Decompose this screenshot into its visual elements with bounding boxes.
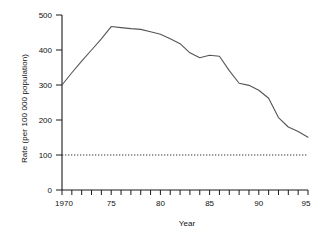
x-tick-label: 85 [205,199,214,208]
y-tick-label: 400 [39,46,53,55]
line-chart-canvas: 0 100 200 300 400 500 [0,0,323,237]
rate-line-series [62,27,308,138]
x-axis-tick-labels: 1970 75 80 85 90 95 [55,199,311,208]
x-tick-label: 95 [302,199,311,208]
x-axis: 1970 75 80 85 90 95 [55,190,311,208]
x-tick-label: 80 [156,199,165,208]
y-tick-label: 300 [39,81,53,90]
x-axis-title: Year [62,219,312,228]
chart-figure: 0 100 200 300 400 500 [0,0,323,237]
y-tick-label: 0 [48,186,53,195]
y-axis-ticks [56,15,62,190]
x-tick-label: 1970 [55,199,73,208]
x-tick-label: 75 [107,199,116,208]
y-tick-label: 200 [39,116,53,125]
y-axis-title: Rate (per 100 000 population) [20,39,29,179]
x-tick-label: 90 [254,199,263,208]
y-tick-label: 500 [39,11,53,20]
y-axis: 0 100 200 300 400 500 [39,11,62,195]
y-axis-tick-labels: 0 100 200 300 400 500 [39,11,53,195]
x-axis-minor-ticks [62,190,308,195]
y-tick-label: 100 [39,151,53,160]
